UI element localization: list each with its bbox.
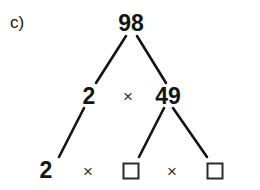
answer-box-second[interactable] xyxy=(207,163,224,180)
multiply-operator-bottom-right: × xyxy=(167,163,177,180)
tree-node-root: 98 xyxy=(118,12,144,35)
tree-node-mid-right: 49 xyxy=(155,85,181,108)
answer-box-first[interactable] xyxy=(123,163,140,180)
multiply-operator-bottom-left: × xyxy=(83,163,93,180)
tree-node-mid-left: 2 xyxy=(83,85,96,108)
tree-leaf-2: 2 xyxy=(40,159,53,182)
branch-49-right xyxy=(173,108,207,157)
multiply-operator-middle: × xyxy=(123,88,133,105)
branch-root-right xyxy=(137,36,166,83)
branch-mid-left-down xyxy=(59,108,84,157)
branch-49-left xyxy=(139,108,164,157)
factor-tree-worksheet: c) 98 2 × 49 2 × × xyxy=(0,0,260,190)
branch-root-left xyxy=(96,36,126,83)
